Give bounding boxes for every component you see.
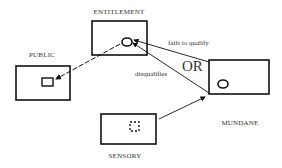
mundane-box [209, 60, 269, 94]
node-mundane: MUNDANE [209, 60, 269, 127]
public-square-icon [42, 78, 53, 86]
disqualifies-label: disqualifies [135, 70, 168, 78]
edge-sensory-to-mundane [159, 97, 205, 119]
or-connector-label: OR [182, 58, 203, 74]
mundane-circle-icon [218, 80, 228, 88]
sensory-dashed-square-icon [130, 122, 139, 131]
entitlement-box [92, 21, 147, 55]
public-label: PUBLIC [29, 51, 55, 59]
diagram-canvas: ENTITLEMENT PUBLIC MUNDANE SENSORY fails… [0, 0, 282, 168]
sensory-box [101, 114, 156, 144]
fails-to-qualify-label: fails to qualify [168, 39, 209, 47]
edge-entitlement-to-public [56, 44, 120, 79]
entitlement-circle-icon [122, 38, 132, 46]
entitlement-label: ENTITLEMENT [94, 8, 145, 16]
mundane-label: MUNDANE [221, 119, 258, 127]
node-entitlement: ENTITLEMENT [92, 8, 147, 55]
public-box [16, 66, 70, 100]
sensory-label: SENSORY [109, 152, 142, 160]
node-sensory: SENSORY [101, 114, 156, 160]
